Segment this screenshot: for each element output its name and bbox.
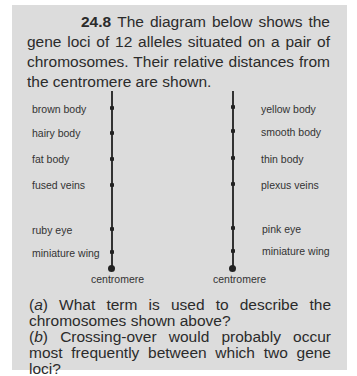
right-locus-label: plexus veins: [261, 179, 319, 191]
left-locus-dot-1: [110, 106, 114, 110]
question-number: 24.8: [27, 13, 111, 30]
right-locus-label: miniature wing: [262, 245, 330, 257]
left-locus-label: ruby eye: [32, 224, 72, 236]
left-locus-label: brown body: [32, 103, 86, 115]
left-locus-dot-4: [110, 183, 114, 187]
question-a: (a) What term is used to describe the ch…: [29, 297, 331, 329]
question-a-text: What term is used to describe the chromo…: [29, 296, 331, 329]
right-locus-label: yellow body: [261, 103, 316, 115]
right-locus-dot-6: [231, 249, 235, 253]
right-locus-label: smooth body: [261, 126, 321, 138]
question-b-text: Crossing-over would probably occur most …: [29, 328, 331, 376]
right-locus-dot-1: [231, 105, 235, 109]
left-locus-dot-2: [110, 131, 114, 135]
right-centromere-dot: [229, 265, 236, 272]
left-locus-label: hairy body: [32, 127, 80, 139]
right-locus-dot-3: [231, 156, 235, 160]
left-chromosome-line: [111, 91, 113, 268]
right-chromosome-line: [232, 91, 234, 268]
question-b: (b) Crossing-over would probably occur m…: [29, 329, 331, 376]
left-locus-dot-5: [110, 227, 114, 231]
right-locus-dot-2: [231, 129, 235, 133]
right-locus-label: thin body: [261, 153, 304, 165]
left-locus-label: miniature wing: [32, 247, 100, 259]
left-locus-dot-6: [110, 250, 114, 254]
left-centromere-dot: [108, 265, 115, 272]
left-locus-label: fat body: [32, 153, 69, 165]
left-centromere-label: centromere: [91, 273, 144, 285]
left-locus-dot-3: [110, 157, 114, 161]
right-centromere-label: centromere: [213, 273, 266, 285]
right-locus-dot-5: [231, 226, 235, 230]
question-intro: 24.8The diagram below shows the gene loc…: [27, 12, 330, 92]
right-locus-dot-4: [231, 182, 235, 186]
question-b-label: b: [34, 328, 43, 345]
question-a-label: a: [34, 296, 43, 313]
questions: (a) What term is used to describe the ch…: [29, 297, 331, 376]
right-locus-label: pink eye: [262, 223, 301, 235]
left-locus-label: fused veins: [32, 179, 85, 191]
